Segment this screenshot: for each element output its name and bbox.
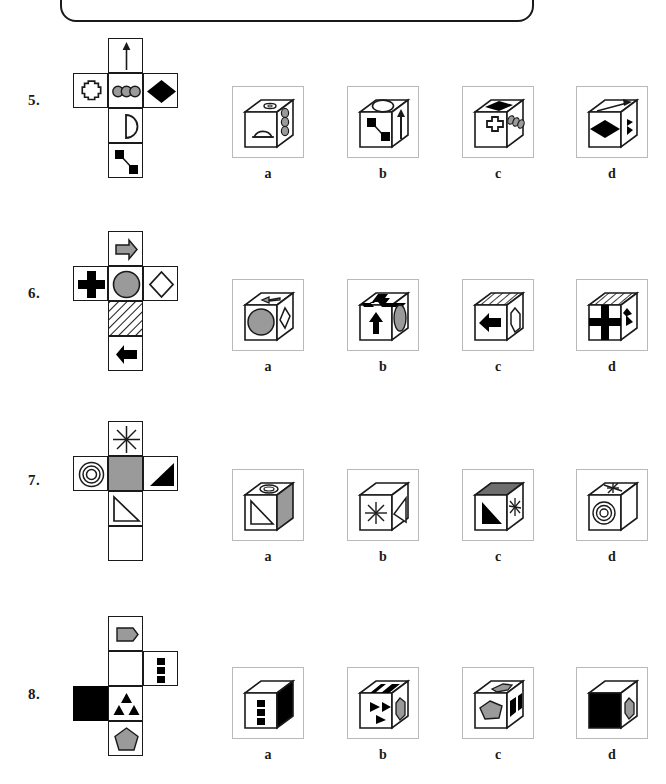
answer-option-7c[interactable] [462,469,534,541]
net-face-middle-left [73,73,108,108]
answer-label-5a: a [232,166,304,182]
net-face-middle-left [73,456,108,491]
answer-label-8a: a [232,747,304,763]
answer-option-6b[interactable] [347,279,419,351]
cube-8b [360,681,408,728]
gray-circle-icon [394,305,406,331]
outline-triangle-icon [114,497,139,521]
cube-8a [245,681,293,728]
half-disc-icon [126,115,137,138]
answer-option-5c[interactable] [462,86,534,158]
gray-pentagon-icon [625,698,634,719]
answer-option-5a[interactable] [232,86,304,158]
net-face-middle-left [73,266,108,301]
cube-6d [589,293,637,340]
net-face-col-row3 [108,686,143,721]
net-face-bottom [108,526,143,561]
net-face-lower [108,491,143,526]
net-face-left-row3 [73,686,108,721]
three-gray-circles-icon [113,86,140,96]
worksheet-page: 5. [0,0,666,784]
answer-option-6c[interactable] [462,279,534,351]
black-left-arrow-icon [116,345,137,364]
question-5-number: 5. [28,92,40,109]
net-face-middle-center [108,266,143,301]
white-diamond-outline-icon [150,272,173,297]
net-face-col-row4 [108,721,143,756]
gray-pentagon-icon [396,698,405,720]
three-black-squares-icon [157,658,165,683]
answer-option-6a[interactable] [232,279,304,351]
gray-circle-icon [248,309,274,335]
net-face-lower [108,108,143,143]
answer-option-8a[interactable] [232,667,304,739]
answer-option-7b[interactable] [347,469,419,541]
net-face-bottom [108,336,143,371]
cube-8c [475,681,523,728]
cube-7d [589,483,637,530]
gray-pentagon-icon [115,728,138,750]
two-black-squares-connector-icon [115,150,138,174]
up-arrow-icon [123,42,131,70]
concentric-circles-icon [260,485,278,493]
gray-pentagon-banner-icon [117,628,138,641]
black-diamond-icon [147,80,176,103]
net-face-lower [108,301,143,336]
answer-label-6c: c [462,359,534,375]
answer-label-8d: d [576,747,648,763]
gray-circle-icon [114,272,140,298]
answer-option-8b[interactable] [347,667,419,739]
three-gray-circles-icon [281,108,288,135]
cube-6b [360,293,408,340]
black-triangle-icon [150,463,174,486]
answer-label-6a: a [232,359,304,375]
answer-option-7d[interactable] [576,469,648,541]
cube-5d [589,99,637,147]
three-black-squares-icon [257,700,265,725]
cube-6a [245,293,293,340]
cube-5b [360,100,408,147]
net-face-col-row1 [108,616,143,651]
net-face-middle-right [143,266,178,301]
cube-8d [589,681,637,728]
question-6-number: 6. [28,285,40,302]
small-cross-outline-icon [82,81,100,99]
cube-5a [245,100,293,147]
small-cross-outline-icon [264,103,276,108]
answer-label-7c: c [462,549,534,565]
net-face-middle-right [143,73,178,108]
answer-label-7d: d [576,549,648,565]
net-face-col-row2 [108,651,143,686]
diagonal-hatch-icon [109,302,143,336]
answer-option-8d[interactable] [576,667,648,739]
net-face-top [108,38,143,73]
half-disc-icon [373,100,394,112]
black-plus-cross-icon [78,271,105,298]
answer-label-5c: c [462,166,534,182]
eight-point-star-icon [113,426,140,453]
net-face-middle-center [108,456,143,491]
three-black-triangles-icon [114,693,140,715]
net-face-top [108,421,143,456]
answer-option-5b[interactable] [347,86,419,158]
net-face-bottom [108,143,143,178]
cube-7a [245,483,293,530]
net-face-right-row2 [143,651,178,686]
answer-label-6d: d [576,359,648,375]
question-8-number: 8. [28,686,40,703]
answer-option-8c[interactable] [462,667,534,739]
concentric-circles-icon [80,463,104,487]
top-rounded-container [60,0,534,22]
answer-label-8b: b [347,747,419,763]
cube-7c [475,483,523,530]
cube-5c [475,100,525,147]
gray-right-arrow-icon [116,240,137,259]
answer-option-7a[interactable] [232,469,304,541]
answer-label-5b: b [347,166,419,182]
cube-6c [475,293,523,340]
answer-label-7a: a [232,549,304,565]
answer-option-6d[interactable] [576,279,648,351]
answer-option-5d[interactable] [576,86,648,158]
eight-point-star-icon [365,502,387,524]
question-7-number: 7. [28,472,40,489]
